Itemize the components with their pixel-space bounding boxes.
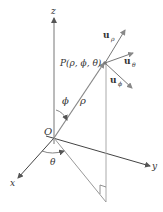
theta-label: θ (50, 157, 56, 167)
svg-text:u: u (103, 30, 110, 40)
point-p-label: P(ρ, ϕ, θ) (59, 58, 102, 68)
y-axis (46, 136, 150, 166)
svg-text:u: u (110, 75, 117, 85)
spherical-coordinates-diagram: z x y O P(ρ, ϕ, θ) ρ ϕ θ u ρ u θ u ϕ (0, 0, 163, 212)
svg-text:ρ: ρ (110, 35, 115, 43)
theta-arc (42, 151, 64, 153)
svg-text:ϕ: ϕ (118, 80, 122, 88)
phi-arc (56, 110, 67, 120)
svg-text:u: u (124, 56, 131, 66)
origin-label: O (44, 126, 52, 137)
u-rho-label: u ρ (103, 30, 115, 43)
right-angle-mark (100, 185, 106, 194)
svg-text:θ: θ (132, 61, 136, 68)
y-axis-label: y (151, 161, 158, 171)
z-axis-label: z (50, 6, 56, 16)
projection-line (54, 138, 106, 202)
u-theta-label: u θ (124, 56, 136, 68)
x-axis (18, 138, 54, 178)
phi-label: ϕ (62, 95, 69, 106)
x-axis-label: x (10, 178, 15, 188)
rho-label: ρ (79, 95, 86, 106)
